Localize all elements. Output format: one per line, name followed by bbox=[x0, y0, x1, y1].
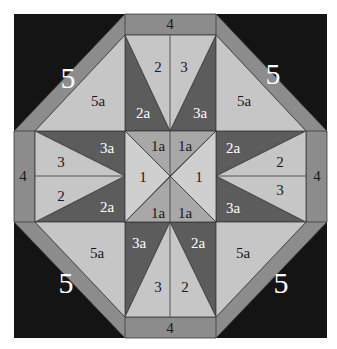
label-5a-br: 5a bbox=[236, 245, 251, 261]
label-2a-top: 2a bbox=[136, 105, 151, 121]
label-5-bl: 5 bbox=[59, 266, 74, 299]
label-5-br: 5 bbox=[274, 266, 289, 299]
octagon-quilt-block-diagram: 4 4 4 4 5 5 5 5 5a 5a 5a 5a 2 3 2a 3a 3a… bbox=[0, 0, 337, 349]
label-1-right: 1 bbox=[195, 169, 203, 185]
label-5a-tr: 5a bbox=[237, 93, 252, 109]
label-1a-br: 1a bbox=[178, 205, 193, 221]
label-3a-bottom: 3a bbox=[132, 235, 147, 251]
label-2-right: 2 bbox=[276, 154, 284, 170]
label-1a-bl: 1a bbox=[151, 205, 166, 221]
label-2a-left: 2a bbox=[100, 199, 115, 215]
label-4-left: 4 bbox=[19, 168, 27, 184]
label-2a-right: 2a bbox=[226, 140, 241, 156]
label-4-right: 4 bbox=[313, 168, 321, 184]
label-5a-bl: 5a bbox=[90, 245, 105, 261]
label-5-tl: 5 bbox=[61, 61, 76, 94]
label-2-left: 2 bbox=[57, 188, 65, 204]
label-3a-right: 3a bbox=[226, 200, 241, 216]
label-2-top: 2 bbox=[154, 59, 162, 75]
label-3-left: 3 bbox=[57, 154, 65, 170]
label-3a-left: 3a bbox=[100, 140, 115, 156]
label-2-bottom: 2 bbox=[181, 279, 189, 295]
label-1a-tr: 1a bbox=[178, 138, 193, 154]
label-3-top: 3 bbox=[180, 59, 188, 75]
label-5a-tl: 5a bbox=[91, 93, 106, 109]
label-1-left: 1 bbox=[139, 169, 147, 185]
label-4-top: 4 bbox=[166, 16, 174, 32]
label-1a-tl: 1a bbox=[151, 138, 166, 154]
label-3a-top: 3a bbox=[193, 105, 208, 121]
label-3-bottom: 3 bbox=[154, 279, 162, 295]
label-4-bottom: 4 bbox=[166, 320, 174, 336]
label-3-right: 3 bbox=[276, 182, 284, 198]
label-5-tr: 5 bbox=[266, 57, 281, 90]
label-2a-bottom: 2a bbox=[191, 235, 206, 251]
